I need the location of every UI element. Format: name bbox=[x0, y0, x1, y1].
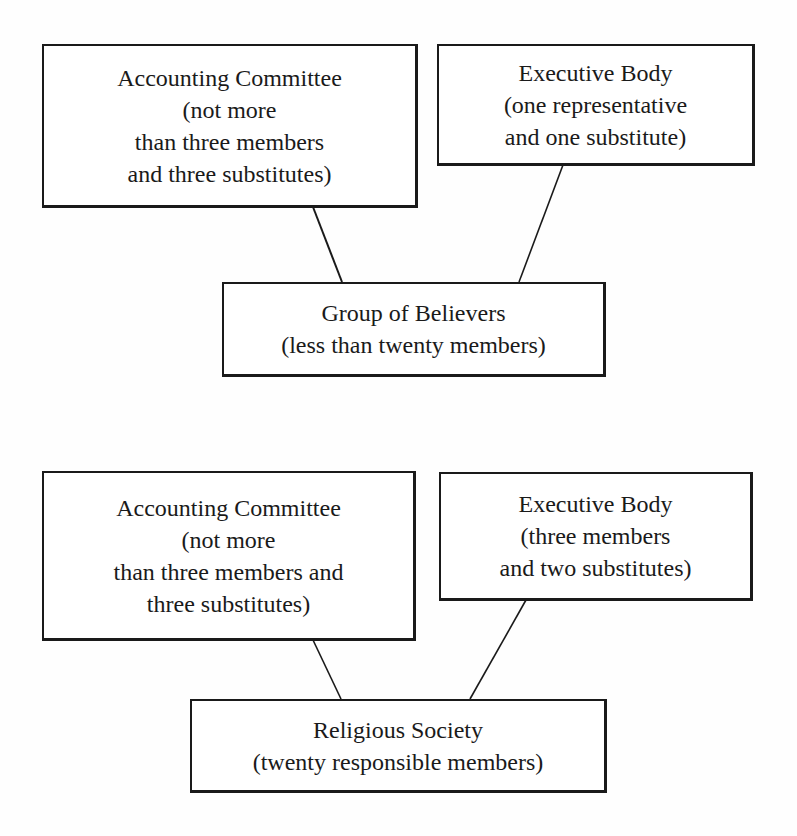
node-title: Accounting Committee bbox=[117, 62, 342, 94]
node-detail-line: and three substitutes) bbox=[128, 158, 332, 190]
node-accounting-committee-2: Accounting Committee (not more than thre… bbox=[42, 471, 416, 641]
node-religious-society: Religious Society (twenty responsible me… bbox=[190, 699, 607, 793]
node-title: Group of Believers bbox=[322, 297, 506, 329]
node-detail-line: than three members bbox=[135, 126, 324, 158]
node-title: Executive Body bbox=[519, 57, 673, 89]
edge-accounting-to-group bbox=[313, 207, 342, 282]
node-accounting-committee-1: Accounting Committee (not more than thre… bbox=[42, 44, 418, 208]
diagram-canvas: Accounting Committee (not more than thre… bbox=[0, 0, 797, 836]
node-detail-line: (twenty responsible members) bbox=[253, 746, 544, 778]
node-detail-line: three substitutes) bbox=[147, 588, 310, 620]
node-title: Executive Body bbox=[519, 488, 673, 520]
node-title: Accounting Committee bbox=[116, 492, 341, 524]
node-executive-body-2: Executive Body (three members and two su… bbox=[439, 472, 753, 601]
node-detail-line: (three members bbox=[521, 520, 671, 552]
node-detail-line: (not more bbox=[182, 524, 276, 556]
edge-accounting-to-society bbox=[313, 640, 341, 699]
node-group-of-believers: Group of Believers (less than twenty mem… bbox=[222, 282, 606, 377]
node-detail-line: and one substitute) bbox=[505, 121, 686, 153]
node-detail-line: (one representative bbox=[504, 89, 687, 121]
node-detail-line: (less than twenty members) bbox=[281, 329, 546, 361]
edge-executive-to-group bbox=[519, 165, 563, 282]
edge-executive-to-society bbox=[470, 600, 526, 699]
node-detail-line: and two substitutes) bbox=[500, 552, 692, 584]
node-detail-line: than three members and bbox=[114, 556, 344, 588]
node-title: Religious Society bbox=[313, 714, 483, 746]
node-detail-line: (not more bbox=[183, 94, 277, 126]
node-executive-body-1: Executive Body (one representative and o… bbox=[437, 44, 755, 166]
